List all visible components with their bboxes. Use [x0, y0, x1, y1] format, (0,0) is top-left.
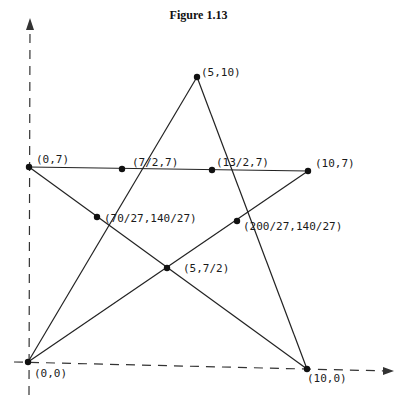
point-label: (0,0): [34, 367, 67, 380]
point-label: (7/2,7): [132, 156, 178, 169]
point-label: (70/27,140/27): [104, 212, 197, 225]
y-axis: [29, 25, 30, 395]
point-label: (200/27,140/27): [243, 220, 342, 233]
point-p00: [25, 359, 31, 365]
star-diagram: (0,0)(10,0)(5,10)(0,7)(10,7)(7/2,7)(13/2…: [0, 0, 397, 400]
point-pB: [234, 218, 240, 224]
point-p510: [194, 74, 200, 80]
x-axis: [14, 362, 388, 371]
point-label: (0,7): [36, 153, 69, 166]
points: (0,0)(10,0)(5,10)(0,7)(10,7)(7/2,7)(13/2…: [25, 66, 355, 385]
y-axis-arrow-icon: [26, 18, 34, 30]
point-p1327: [209, 167, 215, 173]
point-pA: [94, 214, 100, 220]
axes: [14, 25, 388, 395]
point-label: (10,7): [315, 157, 355, 170]
point-label: (10,0): [307, 372, 347, 385]
point-label: (13/2,7): [216, 156, 269, 169]
point-p727: [119, 166, 125, 172]
point-p107: [305, 168, 311, 174]
point-label: (5,10): [201, 66, 241, 79]
point-label: (5,7/2): [183, 262, 229, 275]
x-axis-arrow-icon: [383, 367, 394, 375]
point-p07: [26, 164, 32, 170]
point-pC: [164, 265, 170, 271]
